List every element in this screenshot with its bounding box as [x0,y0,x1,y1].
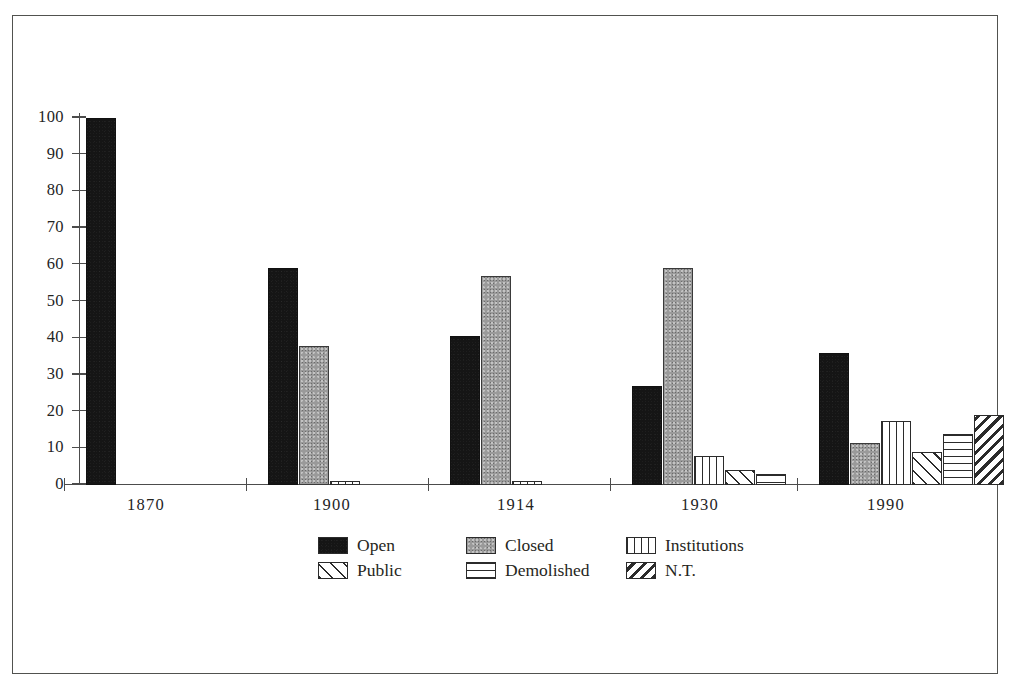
legend-swatch-closed-icon [466,537,496,554]
bar-institutions-1930 [694,456,724,485]
legend-label-public: Public [357,562,402,580]
bar-closed-1930 [663,268,693,485]
bar-open-1990 [819,353,849,485]
legend-item-open: Open [318,537,466,555]
figure-canvas: 1009080706050403020100 18701900191419301… [0,0,1009,693]
legend-item-closed: Closed [466,537,626,555]
legend-label-demolished: Demolished [505,562,590,580]
bar-open-1930 [632,386,662,485]
bar-open-1900 [268,268,298,485]
chart-plot-area: 1009080706050403020100 18701900191419301… [0,0,1009,693]
bar-open-1870 [86,118,116,485]
legend-row: OpenClosedInstitutions [318,533,788,558]
bar-institutions-1900 [330,481,360,485]
legend-swatch-public-icon [318,562,348,579]
chart-legend: OpenClosedInstitutionsPublicDemolishedN.… [318,533,788,583]
bar-public-1930 [725,470,755,485]
x-axis-tick-label: 1930 [630,495,770,515]
bar-demolished-1930 [756,474,786,485]
legend-label-nt: N.T. [665,562,696,580]
x-axis-tick-label: 1914 [446,495,586,515]
legend-item-nt: N.T. [626,562,786,580]
bars-layer [0,0,1009,485]
legend-row: PublicDemolishedN.T. [318,558,788,583]
bar-closed-1990 [850,443,880,485]
bar-institutions-1990 [881,421,911,485]
bar-public-1990 [912,452,942,485]
x-axis-tick-label: 1900 [262,495,402,515]
legend-item-demolished: Demolished [466,562,626,580]
bar-closed-1914 [481,276,511,485]
legend-swatch-institutions-icon [626,537,656,554]
legend-label-closed: Closed [505,537,554,555]
legend-label-open: Open [357,537,395,555]
bar-closed-1900 [299,346,329,485]
legend-swatch-demolished-icon [466,562,496,579]
legend-item-institutions: Institutions [626,537,786,555]
bar-open-1914 [450,336,480,485]
bar-demolished-1990 [943,434,973,485]
legend-swatch-nt-icon [626,562,656,579]
legend-item-public: Public [318,562,466,580]
legend-label-institutions: Institutions [665,537,744,555]
bar-nt-1990 [974,415,1004,485]
legend-swatch-open-icon [318,537,348,554]
x-axis-tick-label: 1870 [76,495,216,515]
x-axis-tick-label: 1990 [816,495,956,515]
bar-institutions-1914 [512,481,542,485]
